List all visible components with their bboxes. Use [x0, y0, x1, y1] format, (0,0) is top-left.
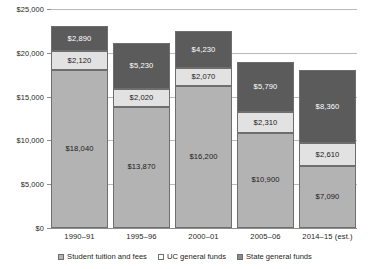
segment-state-general-funds: $4,230: [175, 31, 232, 68]
legend-item: UC general funds: [158, 252, 226, 261]
segment-student-tuition-and-fees: $18,040: [51, 70, 108, 228]
bar-value-label: $2,020: [130, 94, 154, 102]
bar-value-label: $2,890: [68, 35, 92, 43]
legend-item: State general funds: [237, 252, 312, 261]
segment-state-general-funds: $2,890: [51, 26, 108, 51]
bar-value-label: $2,310: [254, 119, 278, 127]
bar-group: $7,090$2,610$8,360: [299, 9, 356, 228]
plot-area: $18,040$2,120$2,890$13,870$2,020$5,230$1…: [51, 9, 357, 228]
segment-uc-general-funds: $2,610: [299, 143, 356, 166]
legend-swatch-icon: [237, 254, 243, 260]
x-axis-tick-label: 2014–15 (est.): [288, 232, 368, 241]
bar-value-label: $4,230: [192, 46, 216, 54]
bar-value-label: $13,870: [127, 163, 155, 171]
y-axis-tick-label: $20,000: [17, 48, 44, 57]
legend-item: Student tuition and fees: [58, 252, 147, 261]
segment-uc-general-funds: $2,120: [51, 51, 108, 70]
bar-value-label: $5,230: [130, 62, 154, 70]
segment-state-general-funds: $5,790: [237, 62, 294, 113]
bar-group: $16,200$2,070$4,230: [175, 9, 232, 228]
segment-uc-general-funds: $2,020: [113, 89, 170, 107]
bar-group: $13,870$2,020$5,230: [113, 9, 170, 228]
legend-swatch-icon: [158, 254, 164, 260]
segment-state-general-funds: $5,230: [113, 43, 170, 89]
bar-group: $18,040$2,120$2,890: [51, 9, 108, 228]
bar-value-label: $16,200: [189, 153, 217, 161]
bar-value-label: $2,070: [192, 73, 216, 81]
segment-student-tuition-and-fees: $10,900: [237, 133, 294, 228]
bar-value-label: $7,090: [316, 193, 340, 201]
legend-label: Student tuition and fees: [67, 252, 147, 261]
chart-legend: Student tuition and feesUC general funds…: [0, 252, 370, 261]
stacked-bar-chart: $0$5,000$10,000$15,000$20,000$25,000 $18…: [0, 0, 370, 269]
segment-student-tuition-and-fees: $7,090: [299, 166, 356, 228]
y-axis-tick-label: $15,000: [17, 92, 44, 101]
bar-value-label: $18,040: [65, 145, 93, 153]
segment-state-general-funds: $8,360: [299, 70, 356, 143]
legend-label: UC general funds: [167, 252, 226, 261]
y-axis-tick-label: $10,000: [17, 136, 44, 145]
bar-value-label: $2,120: [68, 57, 92, 65]
y-axis-tick-label: $5,000: [21, 180, 44, 189]
segment-student-tuition-and-fees: $16,200: [175, 86, 232, 228]
axis-baseline: [51, 228, 357, 229]
bar-value-label: $10,900: [251, 176, 279, 184]
bar-value-label: $8,360: [316, 103, 340, 111]
bar-value-label: $5,790: [254, 83, 278, 91]
legend-swatch-icon: [58, 254, 64, 260]
segment-uc-general-funds: $2,310: [237, 112, 294, 132]
segment-uc-general-funds: $2,070: [175, 68, 232, 86]
bar-value-label: $2,610: [316, 151, 340, 159]
y-axis-tick-label: $25,000: [17, 5, 44, 14]
segment-student-tuition-and-fees: $13,870: [113, 107, 170, 229]
bar-group: $10,900$2,310$5,790: [237, 9, 294, 228]
legend-label: State general funds: [246, 252, 312, 261]
